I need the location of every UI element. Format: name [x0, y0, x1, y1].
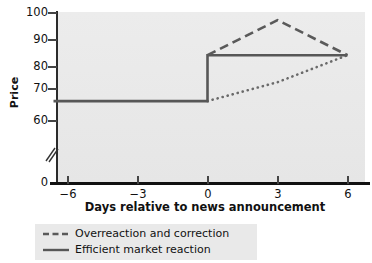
legend-label-overreaction: Overreaction and correction — [75, 227, 229, 240]
legend-label-efficient-market: Efficient market reaction — [75, 243, 211, 256]
series-line-overreaction-and-correction — [208, 20, 348, 55]
chart-legend: Overreaction and correction Efficient ma… — [35, 224, 257, 260]
legend-item-overreaction: Overreaction and correction — [43, 226, 229, 241]
chart-figure: Price 100 90 80 70 60 0 −6 −3 0 3 6 Days… — [0, 0, 372, 263]
series-line-efficient-market-reaction — [54, 55, 348, 101]
legend-dashed-line-icon — [43, 229, 69, 239]
legend-solid-line-icon — [43, 245, 69, 255]
series-line-delayed-reaction — [208, 55, 348, 101]
legend-item-efficient-market: Efficient market reaction — [43, 242, 211, 257]
x-axis-title: Days relative to news announcement — [40, 200, 370, 214]
